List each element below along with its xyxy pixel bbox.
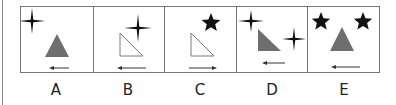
- option-a-cell[interactable]: [21, 7, 93, 72]
- option-c-label: C: [164, 80, 236, 100]
- arrow-left-icon: [117, 66, 146, 70]
- five-point-star-icon: [312, 12, 330, 30]
- option-a-label: A: [20, 80, 92, 100]
- arrow-right-icon: [189, 66, 217, 70]
- option-e-cell[interactable]: [307, 7, 379, 72]
- arrow-left-icon: [262, 61, 285, 65]
- five-point-star-icon: [354, 12, 372, 30]
- gray-triangle-icon: [330, 27, 354, 51]
- outline-right-triangle-icon: [191, 33, 214, 56]
- option-c-cell[interactable]: [164, 7, 236, 72]
- five-point-star-icon: [202, 13, 221, 31]
- four-point-star-icon: [282, 27, 306, 51]
- gray-triangle-icon: [45, 34, 69, 57]
- four-point-star-icon: [124, 14, 152, 42]
- outline-right-triangle-icon: [120, 33, 143, 56]
- gray-right-triangle-icon: [258, 29, 281, 51]
- option-labels: A B C D E: [20, 80, 380, 100]
- arrow-left-icon: [49, 66, 69, 70]
- option-d-cell[interactable]: [236, 7, 308, 72]
- arrow-left-icon: [331, 65, 360, 69]
- option-d-label: D: [236, 80, 308, 100]
- answer-options-frame: [20, 6, 380, 73]
- option-e-label: E: [308, 80, 380, 100]
- four-point-star-icon: [21, 8, 45, 34]
- option-b-label: B: [92, 80, 164, 100]
- four-point-star-icon: [238, 10, 264, 32]
- option-b-cell[interactable]: [93, 7, 165, 72]
- left-margin-rule: [2, 0, 3, 105]
